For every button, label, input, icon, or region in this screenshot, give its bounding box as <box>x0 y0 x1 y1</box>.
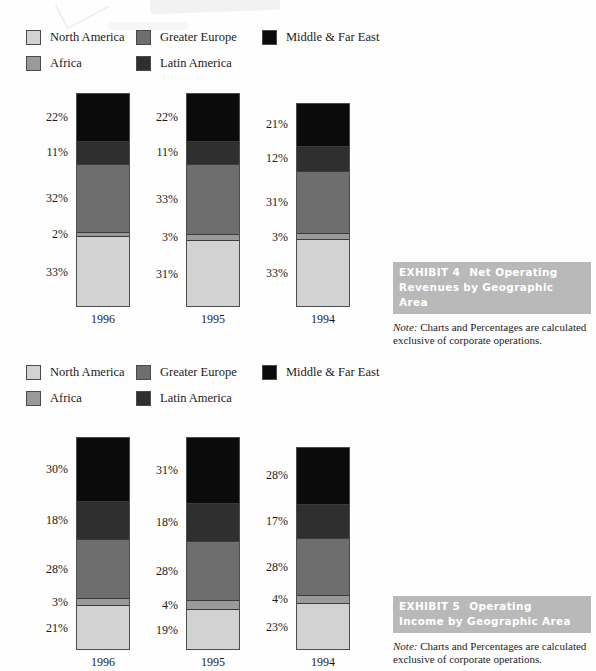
value-label-1995-africa: 4% <box>134 598 178 613</box>
bar-segment-1996-north-america <box>77 236 129 306</box>
value-label-1994-africa: 4% <box>244 592 288 607</box>
bar-segment-1996-greater-europe <box>77 539 129 598</box>
note-text-4: Charts and Percentages are calculated ex… <box>393 321 586 346</box>
legend-swatch-north_america-icon <box>26 30 41 45</box>
bar-1996 <box>76 437 130 650</box>
axis-label-1995: 1995 <box>186 312 240 327</box>
value-label-1995-latin-america: 18% <box>134 515 178 530</box>
bar-segment-1995-north-america <box>187 240 239 306</box>
bar-segment-1996-north-america <box>77 605 129 649</box>
bar-segment-1996-middle-far-east <box>77 438 129 501</box>
value-label-1994-latin-america: 12% <box>244 151 288 166</box>
note-text-5: Charts and Percentages are calculated ex… <box>393 640 586 665</box>
scan-artifact-smudge <box>150 0 281 14</box>
bar-segment-1996-latin-america <box>77 141 129 164</box>
value-label-1996-africa: 2% <box>24 227 68 242</box>
legend-label-middle_far_east: Middle & Far East <box>286 30 379 45</box>
bar-segment-1994-middle-far-east <box>297 448 349 504</box>
bar-segment-1994-greater-europe <box>297 171 349 234</box>
exhibit-note-5: Note: Charts and Percentages are calcula… <box>393 640 591 665</box>
legend-label-africa: Africa <box>50 56 82 71</box>
value-label-1994-greater-europe: 28% <box>244 560 288 575</box>
note-label-5: Note: <box>393 640 417 652</box>
bar-segment-1996-greater-europe <box>77 164 129 232</box>
legend-item-greater_europe: Greater Europe <box>136 365 237 380</box>
axis-label-1996: 1996 <box>76 312 130 327</box>
axis-label-1995: 1995 <box>186 655 240 670</box>
value-label-1995-latin-america: 11% <box>134 145 178 160</box>
legend-swatch-greater_europe-icon <box>136 365 151 380</box>
value-label-1996-latin-america: 18% <box>24 513 68 528</box>
legend-swatch-middle_far_east-icon <box>262 365 277 380</box>
value-label-1996-greater-europe: 32% <box>24 191 68 206</box>
legend-label-middle_far_east: Middle & Far East <box>286 365 379 380</box>
bar-segment-1994-latin-america <box>297 146 349 170</box>
note-label-4: Note: <box>393 321 417 333</box>
value-label-1995-greater-europe: 28% <box>134 564 178 579</box>
bar-segment-1994-africa <box>297 595 349 603</box>
value-label-1995-middle-far-east: 22% <box>134 110 178 125</box>
bar-segment-1994-middle-far-east <box>297 104 349 146</box>
axis-label-1994: 1994 <box>296 312 350 327</box>
legend-label-africa: Africa <box>50 391 82 406</box>
value-label-1994-greater-europe: 31% <box>244 195 288 210</box>
exhibit-title-5-line1: Operating <box>469 600 532 612</box>
legend-item-north_america: North America <box>26 365 125 380</box>
legend-item-africa: Africa <box>26 56 82 71</box>
bar-segment-1995-latin-america <box>187 503 239 541</box>
value-label-1995-greater-europe: 33% <box>134 192 178 207</box>
legend-item-middle_far_east: Middle & Far East <box>262 365 379 380</box>
bar-1994 <box>296 447 350 650</box>
value-label-1994-north-america: 33% <box>244 266 288 281</box>
bar-1994 <box>296 103 350 307</box>
scan-artifact-curve <box>54 0 110 30</box>
bar-segment-1994-north-america <box>297 239 349 306</box>
legend-swatch-latin_america-icon <box>136 56 151 71</box>
exhibit-note-4: Note: Charts and Percentages are calcula… <box>393 321 591 346</box>
value-label-1996-africa: 3% <box>24 595 68 610</box>
legend-swatch-north_america-icon <box>26 365 41 380</box>
bar-segment-1995-north-america <box>187 609 239 649</box>
legend-swatch-latin_america-icon <box>136 391 151 406</box>
legend-item-middle_far_east: Middle & Far East <box>262 30 379 45</box>
exhibit-band-4: EXHIBIT 4Net Operating Revenues by Geogr… <box>393 262 591 314</box>
bar-segment-1995-middle-far-east <box>187 438 239 503</box>
legend-swatch-africa-icon <box>26 56 41 71</box>
legend-label-north_america: North America <box>50 30 125 45</box>
bar-segment-1996-latin-america <box>77 501 129 539</box>
bar-segment-1995-africa <box>187 600 239 608</box>
exhibit-number-4: EXHIBIT 4 <box>399 266 460 278</box>
value-label-1995-north-america: 19% <box>134 623 178 638</box>
bar-segment-1995-middle-far-east <box>187 94 239 141</box>
bar-segment-1994-greater-europe <box>297 538 349 594</box>
axis-label-1994: 1994 <box>296 655 350 670</box>
exhibit-caption-5: EXHIBIT 5Operating Income by Geographic … <box>393 596 591 665</box>
value-label-1996-north-america: 33% <box>24 265 68 280</box>
legend-label-latin_america: Latin America <box>160 56 232 71</box>
value-label-1994-africa: 3% <box>244 230 288 245</box>
scan-artifact-blur <box>108 22 188 30</box>
legend-label-greater_europe: Greater Europe <box>160 365 237 380</box>
legend-swatch-greater_europe-icon <box>136 30 151 45</box>
legend-swatch-africa-icon <box>26 391 41 406</box>
bar-segment-1995-greater-europe <box>187 541 239 600</box>
value-label-1995-africa: 3% <box>134 230 178 245</box>
value-label-1994-north-america: 23% <box>244 620 288 635</box>
value-label-1994-middle-far-east: 21% <box>244 117 288 132</box>
legend-item-latin_america: Latin America <box>136 391 232 406</box>
exhibit-title-4-line1: Net Operating <box>469 266 558 278</box>
value-label-1994-latin-america: 17% <box>244 514 288 529</box>
bar-segment-1994-north-america <box>297 603 349 649</box>
legend-swatch-middle_far_east-icon <box>262 30 277 45</box>
legend-label-greater_europe: Greater Europe <box>160 30 237 45</box>
legend-item-latin_america: Latin America <box>136 56 232 71</box>
legend-item-africa: Africa <box>26 391 82 406</box>
value-label-1996-middle-far-east: 22% <box>24 110 68 125</box>
value-label-1996-middle-far-east: 30% <box>24 462 68 477</box>
legend-label-north_america: North America <box>50 365 125 380</box>
legend-label-latin_america: Latin America <box>160 391 232 406</box>
axis-label-1996: 1996 <box>76 655 130 670</box>
bar-segment-1996-middle-far-east <box>77 94 129 141</box>
value-label-1996-greater-europe: 28% <box>24 562 68 577</box>
bar-segment-1995-latin-america <box>187 141 239 164</box>
